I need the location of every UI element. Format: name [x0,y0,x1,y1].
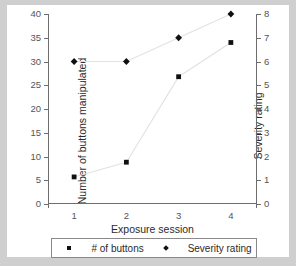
left-tick-label: 35 [30,33,41,43]
right-tick-label: 3 [264,128,269,138]
data-point-severity [71,58,78,65]
left-tick-label: 30 [30,57,41,67]
data-point-buttons [228,40,233,45]
data-point-severity [227,11,234,18]
x-tick-label: 4 [228,211,233,221]
right-tick-label: 0 [264,199,269,209]
left-tick-label: 5 [36,176,41,186]
data-point-buttons [124,160,129,165]
data-point-severity [175,34,182,41]
left-tick-label: 20 [30,104,41,114]
left-tick-label: 40 [30,9,41,19]
legend: # of buttons Severity rating [51,238,257,258]
x-tick-label: 1 [71,211,76,221]
legend-item-severity-label: Severity rating [188,243,252,254]
legend-item-severity[interactable]: Severity rating [153,243,252,254]
right-tick-label: 4 [264,104,269,114]
series-line-severity [74,14,231,62]
data-point-severity [123,58,130,65]
chart-canvas: Number of buttons manipulated Severity r… [7,5,289,257]
legend-item-buttons-label: # of buttons [91,243,143,254]
data-series-layer [48,14,257,204]
right-tick-label: 5 [264,81,269,91]
right-tick-label: 1 [264,176,269,186]
figure: Number of buttons manipulated Severity r… [0,0,296,266]
square-marker-icon [56,246,82,250]
left-tick-label: 0 [36,199,41,209]
left-tick-label: 10 [30,152,41,162]
series-line-buttons [74,43,231,177]
right-tick-label: 2 [264,152,269,162]
x-tick-label: 2 [124,211,129,221]
x-axis-title: Exposure session [48,223,257,235]
right-tick-label: 7 [264,33,269,43]
left-tick-label: 15 [30,128,41,138]
data-point-buttons [176,74,181,79]
legend-item-buttons[interactable]: # of buttons [56,243,143,254]
data-point-buttons [72,175,77,180]
right-tick-label: 8 [264,9,269,19]
right-tick-label: 6 [264,57,269,67]
plot-area: 0510152025303540 012345678 1234 [48,14,257,204]
x-tick-label: 3 [176,211,181,221]
left-tick-label: 25 [30,81,41,91]
diamond-marker-icon [153,246,179,250]
